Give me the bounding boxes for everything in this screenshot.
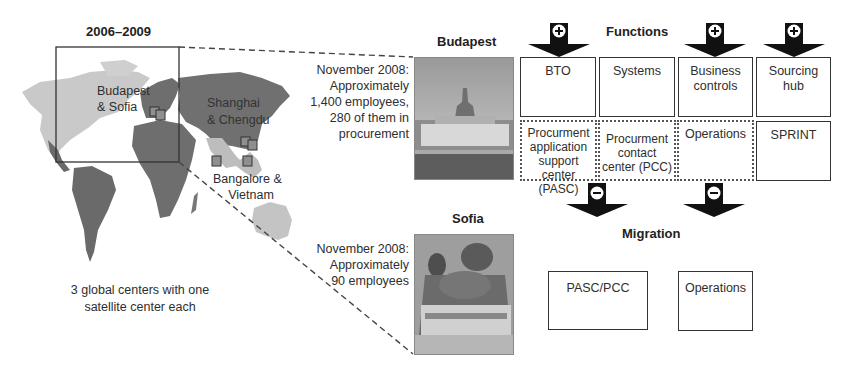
- label-budapest-sofia: Budapest & Sofia: [97, 83, 150, 115]
- sofia-title: Sofia: [452, 211, 484, 226]
- map-africa: [132, 120, 196, 218]
- parliament-building-image: [415, 58, 514, 180]
- function-box-bto: BTO: [520, 57, 596, 117]
- function-box-systems: Systems: [599, 57, 675, 117]
- plus-arrow-sourcing-hub: [763, 23, 825, 57]
- budapest-description: November 2008: Approximately 1,400 emplo…: [280, 62, 409, 142]
- marker-bangalore: [212, 156, 221, 166]
- map-madagascar: [191, 192, 198, 214]
- function-box-pcc: Procurment contact center (PCC): [598, 120, 676, 181]
- budapest-photo: [414, 57, 514, 180]
- migration-box-operations: Operations: [678, 271, 753, 331]
- marker-sofia: [156, 110, 165, 120]
- label-shanghai-chengdu: Shanghai & Chengdu: [207, 95, 270, 129]
- marker-chengdu: [248, 140, 257, 150]
- sofia-description: November 2008: Approximately 90 employee…: [280, 241, 409, 289]
- map-australia: [252, 202, 292, 240]
- plus-arrow-bto: [528, 23, 590, 57]
- function-box-sourcing-hub: Sourcing hub: [756, 57, 831, 117]
- map-south-america: [72, 166, 116, 262]
- budapest-title: Budapest: [437, 34, 496, 49]
- cathedral-image: [415, 235, 514, 355]
- zoom-line-top: [179, 47, 413, 57]
- migration-box-pasc-pcc: PASC/PCC: [548, 271, 648, 330]
- world-map: [22, 60, 292, 262]
- minus-arrow-operations: [683, 183, 745, 217]
- sofia-photo: [414, 234, 514, 355]
- function-box-operations: Operations: [677, 120, 754, 181]
- migration-title: Migration: [622, 226, 681, 241]
- function-box-business-controls: Business controls: [678, 57, 753, 117]
- period-title: 2006–2009: [86, 24, 151, 39]
- function-box-sprint: SPRINT: [756, 121, 831, 181]
- marker-vietnam: [243, 156, 252, 166]
- map-caption: 3 global centers with one satellite cent…: [40, 282, 240, 316]
- label-bangalore-vietnam: Bangalore & Vietnam: [213, 171, 289, 203]
- plus-arrow-business-controls: [684, 23, 746, 57]
- functions-title: Functions: [606, 24, 668, 39]
- function-box-pasc: Procurment application support center (P…: [520, 120, 597, 181]
